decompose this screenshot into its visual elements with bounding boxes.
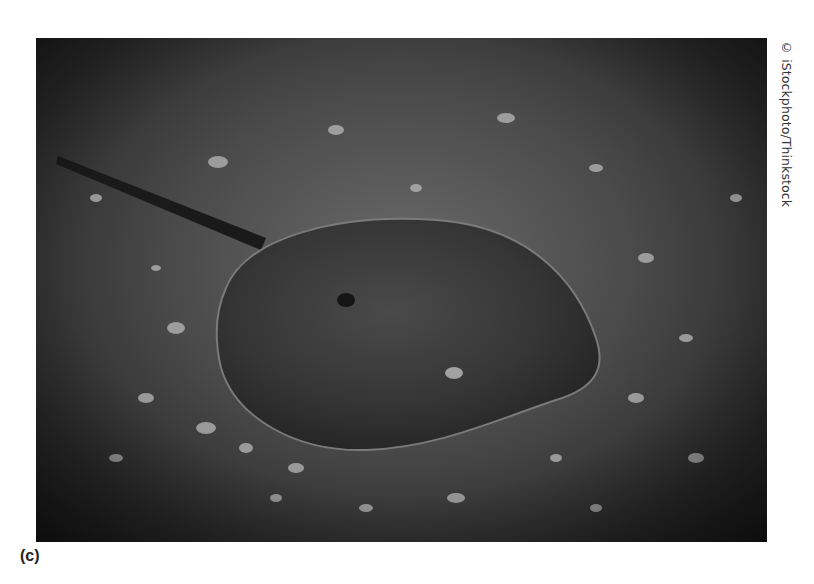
photo-credit: © iStockphoto/Thinkstock <box>779 40 794 207</box>
figure: © iStockphoto/Thinkstock (c) <box>0 0 814 584</box>
panel-label: (c) <box>20 547 40 565</box>
horseshoe-crab-photo <box>36 38 767 542</box>
photo-illustration <box>36 38 767 542</box>
